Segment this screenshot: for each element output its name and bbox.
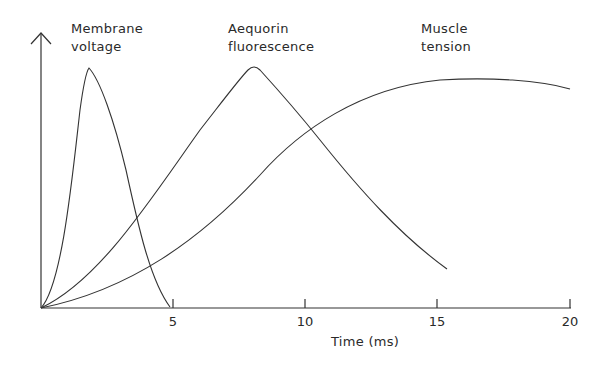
aequorin-fluorescence-label: Aequorin fluorescence — [228, 20, 314, 56]
muscle-tension-label: Muscle tension — [421, 20, 471, 56]
membrane-voltage-label: Membrane voltage — [71, 20, 143, 56]
x-axis-label: Time (ms) — [331, 333, 399, 351]
membrane-label-line2: voltage — [71, 38, 143, 56]
x-tick-label-5: 5 — [169, 314, 177, 329]
aequorin-label-line1: Aequorin — [228, 20, 314, 38]
muscle-label-line2: tension — [421, 38, 471, 56]
x-tick-label-10: 10 — [297, 314, 314, 329]
x-tick-label-15: 15 — [429, 314, 446, 329]
aequorin-label-line2: fluorescence — [228, 38, 314, 56]
membrane-label-line1: Membrane — [71, 20, 143, 38]
muscle-tension-curve — [41, 79, 570, 308]
membrane-voltage-curve — [41, 68, 170, 308]
x-tick-label-20: 20 — [562, 314, 579, 329]
aequorin-fluorescence-curve — [41, 67, 447, 308]
muscle-label-line1: Muscle — [421, 20, 471, 38]
